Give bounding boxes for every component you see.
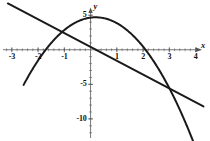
y-tick-label: 5 xyxy=(83,11,87,19)
x-tick-label: -3 xyxy=(9,53,15,61)
x-tick-label: 1 xyxy=(115,53,119,61)
curve-parabola xyxy=(24,17,203,141)
x-tick-label: -1 xyxy=(61,53,67,61)
y-axis-arrowhead xyxy=(88,8,92,14)
x-tick-label: 3 xyxy=(167,53,171,61)
x-tick-label: -2 xyxy=(35,53,41,61)
y-axis-label: y xyxy=(94,2,98,11)
axis-group xyxy=(3,8,202,139)
y-tick-label: -10 xyxy=(76,115,86,123)
plot-canvas xyxy=(0,0,210,141)
x-tick-label: 2 xyxy=(141,53,145,61)
y-tick-label: -5 xyxy=(80,80,86,88)
x-tick-label: 4 xyxy=(194,53,198,61)
x-axis-label: x xyxy=(201,41,205,50)
plot-figure: -3-2-11234 5-5-10 x y xyxy=(0,0,210,141)
